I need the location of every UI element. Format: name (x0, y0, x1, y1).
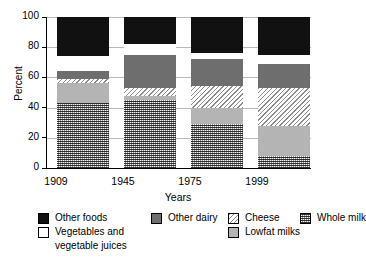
bar-segment-1909-other-dairy[interactable] (57, 71, 109, 79)
y-tick-label-60: 60 (28, 70, 39, 81)
legend-item-vegetables[interactable]: Vegetables and (38, 226, 124, 238)
y-tick-label-40: 40 (28, 101, 39, 112)
legend-swatch-lowfat-icon (228, 227, 239, 238)
bar-segment-1909-cheese[interactable] (57, 79, 109, 84)
legend-label-vegetables-line2: vegetable juices (55, 240, 127, 252)
x-tick-label-1975: 1975 (155, 175, 225, 187)
bar-1945[interactable] (124, 17, 176, 168)
legend-label-other-dairy: Other dairy (168, 212, 217, 224)
bar-segment-1909-lowfat[interactable] (57, 83, 109, 103)
bar-segment-1999-whole[interactable] (258, 156, 310, 168)
legend-item-cheese[interactable]: Cheese (228, 212, 279, 224)
bar-segment-1975-vegetables[interactable] (191, 53, 243, 59)
bar-segment-1975-other-dairy[interactable] (191, 59, 243, 86)
legend-label-whole-milk: Whole milk (317, 212, 366, 224)
bar-segment-1975-other-foods[interactable] (191, 17, 243, 53)
bar-segment-1975-whole[interactable] (191, 124, 243, 168)
bar-1975[interactable] (191, 17, 243, 168)
y-tick-label-0: 0 (33, 161, 39, 172)
bar-1909[interactable] (57, 17, 109, 168)
x-tick-label-1999: 1999 (222, 175, 292, 187)
bar-segment-1945-other-foods[interactable] (124, 17, 176, 44)
bar-1999[interactable] (258, 17, 310, 168)
legend-label-cheese: Cheese (245, 212, 279, 224)
legend-label-vegetables: Vegetables and (55, 226, 124, 238)
bar-segment-1909-other-foods[interactable] (57, 17, 109, 56)
bar-segment-1975-cheese[interactable] (191, 86, 243, 107)
bar-segment-1909-vegetables[interactable] (57, 56, 109, 71)
legend-item-whole-milk[interactable]: Whole milk (300, 212, 366, 224)
bar-segment-1999-cheese[interactable] (258, 88, 310, 126)
bar-segment-1999-vegetables[interactable] (258, 55, 310, 64)
x-tick-label-1909: 1909 (21, 175, 91, 187)
bar-segment-1945-other-dairy[interactable] (124, 55, 176, 88)
y-tick-mark-0 (42, 168, 47, 169)
legend-label-lowfat: Lowfat milks (245, 226, 300, 238)
x-tick-label-1945: 1945 (88, 175, 158, 187)
bar-segment-1945-vegetables[interactable] (124, 44, 176, 55)
legend-swatch-whole-milk-icon (300, 213, 311, 224)
y-tick-label-80: 80 (28, 40, 39, 51)
bar-segment-1909-whole[interactable] (57, 103, 109, 168)
bar-segment-1945-lowfat[interactable] (124, 96, 176, 101)
x-axis-label: Years (46, 191, 310, 203)
legend-swatch-vegetables-icon (38, 227, 49, 238)
chart-legend: Other foods Vegetables and vegetable jui… (38, 212, 350, 258)
bar-segment-1975-lowfat[interactable] (191, 108, 243, 125)
legend-item-lowfat[interactable]: Lowfat milks (228, 226, 300, 238)
legend-item-other-dairy[interactable]: Other dairy (151, 212, 217, 224)
legend-item-other-foods[interactable]: Other foods (38, 212, 107, 224)
bar-segment-1945-whole[interactable] (124, 100, 176, 168)
legend-swatch-other-foods-icon (38, 213, 49, 224)
bar-segment-1999-other-dairy[interactable] (258, 64, 310, 88)
y-axis-label: Percent (13, 44, 24, 124)
y-tick-label-20: 20 (28, 131, 39, 142)
bar-segment-1999-other-foods[interactable] (258, 17, 310, 55)
plot-area: 100 80 60 40 20 0 (46, 17, 311, 169)
bar-segment-1999-lowfat[interactable] (258, 126, 310, 156)
bar-segment-1945-cheese[interactable] (124, 88, 176, 96)
legend-swatch-other-dairy-icon (151, 213, 162, 224)
legend-label-other-foods: Other foods (55, 212, 107, 224)
legend-swatch-cheese-icon (228, 213, 239, 224)
legend-item-vegetables-line2: vegetable juices (55, 240, 127, 252)
y-tick-label-100: 100 (22, 10, 39, 21)
